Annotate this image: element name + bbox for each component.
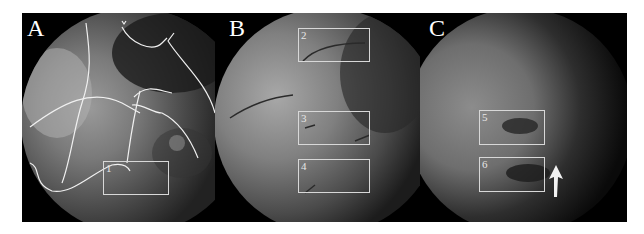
inset-box-4: 4	[298, 159, 370, 193]
panel-label-a: A	[27, 13, 44, 43]
inset-box-1: 1	[103, 161, 169, 195]
figure-strip: A 1	[22, 13, 627, 222]
inset-box-5: 5	[479, 110, 545, 145]
panel-a: A 1	[22, 13, 215, 222]
inset-number-6: 6	[482, 158, 488, 171]
arrow-icon	[548, 163, 564, 199]
inset-number-1: 1	[106, 162, 112, 175]
inset-number-2: 2	[301, 29, 307, 42]
inset-number-4: 4	[301, 160, 307, 173]
panel-b: B 2 3 4	[215, 13, 420, 222]
panel-label-b: B	[229, 13, 245, 43]
inset-number-3: 3	[301, 112, 307, 125]
inset-box-3: 3	[298, 111, 370, 145]
panel-label-c: C	[429, 13, 445, 43]
inset-box-6: 6	[479, 157, 545, 192]
panel-c: C 5 6	[420, 13, 627, 222]
inset-number-5: 5	[482, 111, 488, 124]
inset-box-2: 2	[298, 28, 370, 62]
